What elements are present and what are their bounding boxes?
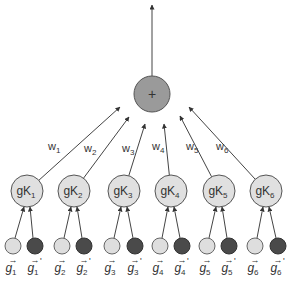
prime-mark: ' [234,256,236,266]
weight-label-5: w5 [185,140,199,155]
weighted-kernel-sum-diagram: +w1gK1→g1→g1'w2gK2→g2→g2'w3gK3→g3→g3'w4g… [0,0,292,287]
diagram-canvas: +w1gK1→g1→g1'w2gK2→g2→g2'w3gK3→g3→g3'w4g… [0,0,292,287]
input-node-g5 [199,238,215,254]
weight-edge-4 [164,124,169,175]
input-node-g2-prime [76,238,92,254]
input-edge-6b [269,207,276,238]
labels: +w1gK1→g1→g1'w2gK2→g2→g2'w3gK3→g3→g3'w4g… [5,86,285,277]
prime-mark: ' [89,256,91,266]
input-edge-1a [15,207,24,238]
input-node-g3-prime [127,238,143,254]
prime-mark: ' [40,256,42,266]
input-edge-2a [64,207,71,238]
input-edge-5b [222,207,227,238]
weight-label-2: w2 [83,142,97,157]
input-edge-6a [257,207,263,238]
input-node-g4 [152,238,168,254]
sum-node-plus-icon: + [148,86,156,102]
weight-label-4: w4 [151,140,165,155]
input-edge-4b [174,207,180,238]
input-edge-1b [30,207,33,238]
input-edge-3b [127,207,133,238]
nodes [5,76,286,254]
input-node-g6-prime [270,238,286,254]
input-node-g2 [54,238,70,254]
input-node-g6 [247,238,263,254]
prime-mark: ' [187,256,189,266]
weight-label-6: w6 [215,140,229,155]
weight-label-3: w3 [121,142,135,157]
input-edge-3a [114,207,121,238]
prime-mark: ' [140,256,142,266]
input-edge-5a [209,207,216,238]
input-edge-2b [77,207,82,238]
edges [15,5,276,238]
input-node-g1 [5,238,21,254]
prime-mark: ' [283,256,285,266]
weight-label-1: w1 [47,140,61,155]
input-node-g4-prime [174,238,190,254]
input-edge-4a [162,207,168,238]
input-node-g1-prime [27,238,43,254]
input-node-g5-prime [221,238,237,254]
input-node-g3 [104,238,120,254]
